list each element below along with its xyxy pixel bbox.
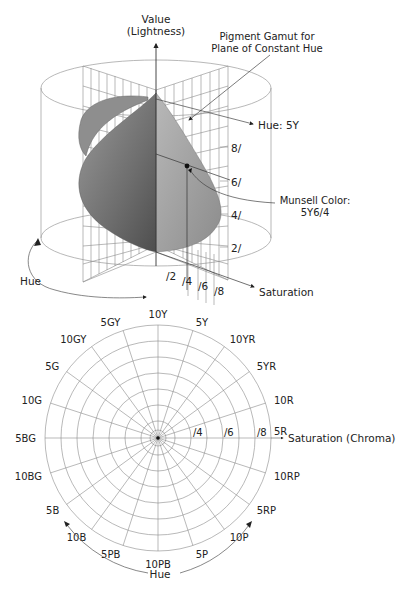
value-axis-label-sub: (Lightness) — [127, 25, 185, 37]
hue-label: 10G — [22, 395, 42, 406]
svg-text:/2: /2 — [166, 270, 176, 282]
hue-rotation-arrow — [28, 241, 146, 298]
hue-label: 10R — [274, 395, 294, 406]
hue-label: 5B — [46, 505, 59, 516]
hue-arrow-head-start — [34, 238, 41, 246]
svg-text:2/: 2/ — [231, 242, 242, 254]
hue-label: 5GY — [101, 317, 122, 328]
hue-label: 5RP — [257, 505, 276, 516]
svg-text:/6: /6 — [198, 280, 209, 292]
gamut-label-sub: Plane of Constant Hue — [211, 43, 323, 54]
munsell-hue-chroma-polar-chart: Saturation (Chroma) /4 /6 /8 10Y5Y10YR5Y… — [15, 309, 396, 580]
chroma-axis-label: Saturation (Chroma) — [288, 432, 395, 444]
hue-arc-label: Hue — [149, 568, 170, 580]
munsell-color-value: 5Y6/4 — [301, 207, 330, 218]
munsell-color-system-figure: Value (Lightness) Pigment Gamut for Plan… — [0, 0, 417, 597]
hue-label: 5Y — [196, 317, 209, 328]
hue-label: 10Y — [149, 309, 169, 320]
saturation-axis-label: Saturation — [259, 286, 314, 298]
hue-arc-arrow-head-left — [64, 521, 70, 527]
hue-label: 5YR — [257, 361, 276, 372]
hue-arrow-label: Hue — [20, 275, 41, 287]
hue-label: 5BG — [15, 433, 36, 444]
svg-text:/8: /8 — [214, 285, 224, 297]
munsell-solid-3d: Value (Lightness) Pigment Gamut for Plan… — [20, 13, 350, 305]
hue-label: 10RP — [274, 471, 300, 482]
hue-label: 5P — [196, 549, 208, 560]
hue-label: 10YR — [230, 334, 256, 345]
grid-front-lines — [83, 245, 228, 305]
svg-text:4/: 4/ — [231, 209, 242, 221]
gamut-label: Pigment Gamut for — [219, 31, 315, 42]
munsell-color-label: Munsell Color: — [280, 195, 351, 206]
hue-arc-arrow-head-right — [246, 521, 252, 528]
hue-plane-label: Hue: 5Y — [258, 119, 300, 131]
svg-text:/8: /8 — [257, 427, 267, 438]
svg-text:6/: 6/ — [231, 176, 242, 188]
hue-label: 10B — [67, 532, 87, 543]
value-axis-label: Value — [142, 13, 171, 25]
hue-label: 5G — [45, 361, 59, 372]
hue-label: 5PB — [101, 549, 120, 560]
hue-label: 5R — [274, 426, 287, 437]
svg-text:8/: 8/ — [231, 142, 242, 154]
hue-label: 10BG — [15, 471, 42, 482]
chroma-ticks: /4 /6 /8 — [193, 427, 267, 438]
svg-text:/6: /6 — [224, 427, 234, 438]
hue-label: 10GY — [60, 334, 87, 345]
svg-text:/4: /4 — [182, 275, 193, 287]
neutral-center — [156, 436, 160, 440]
svg-text:/4: /4 — [193, 427, 203, 438]
